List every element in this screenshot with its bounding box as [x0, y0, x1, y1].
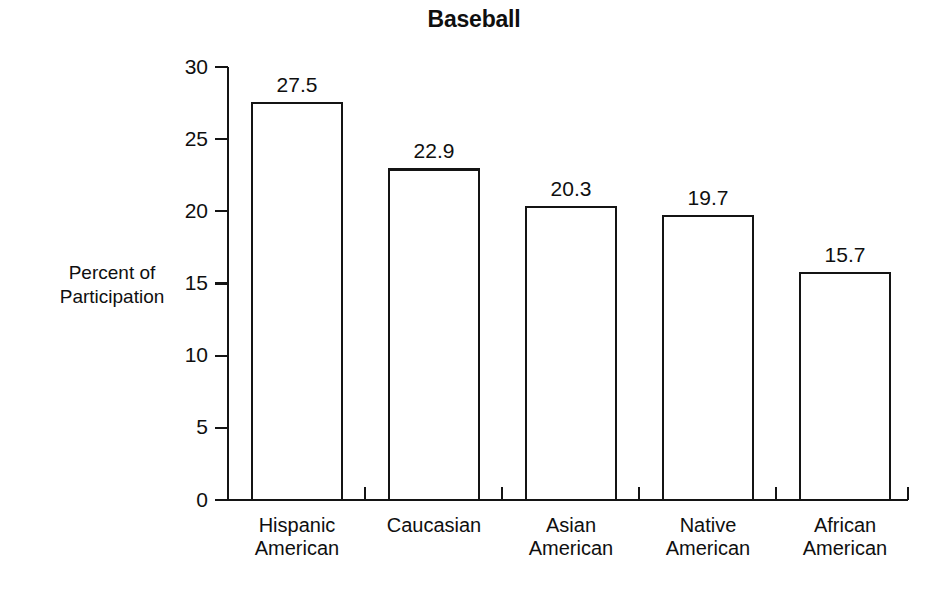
y-axis-tick-label: 25	[185, 127, 208, 150]
bar-1[interactable]	[252, 103, 342, 500]
x-axis-category-label: African	[814, 514, 876, 536]
y-axis-tick-label: 10	[185, 343, 208, 366]
x-axis-category-label: Hispanic	[259, 514, 336, 536]
x-axis-category-label: American	[803, 537, 887, 559]
x-axis-category-label: American	[255, 537, 339, 559]
y-axis-title: Participation	[60, 286, 165, 307]
bar-value-label: 27.5	[277, 73, 318, 96]
bar-value-label: 19.7	[688, 186, 729, 209]
bar-value-label: 20.3	[551, 177, 592, 200]
x-axis-category-label: Caucasian	[387, 514, 482, 536]
x-axis-category-label: Asian	[546, 514, 596, 536]
chart-plot-area: 051015202530Percent ofParticipation27.5H…	[0, 0, 948, 593]
bar-5[interactable]	[800, 273, 890, 500]
bar-value-label: 22.9	[414, 139, 455, 162]
x-axis-category-label: American	[529, 537, 613, 559]
bar-chart-figure: Baseball 051015202530Percent ofParticipa…	[0, 0, 948, 593]
x-axis-category-label: Native	[680, 514, 737, 536]
bar-value-label: 15.7	[825, 243, 866, 266]
y-axis-title: Percent of	[69, 262, 156, 283]
y-axis-tick-label: 30	[185, 55, 208, 78]
bar-2[interactable]	[389, 169, 479, 500]
y-axis-tick-label: 20	[185, 199, 208, 222]
bar-4[interactable]	[663, 216, 753, 500]
y-axis-tick-label: 5	[196, 415, 208, 438]
y-axis-tick-label: 15	[185, 271, 208, 294]
x-axis-category-label: American	[666, 537, 750, 559]
bar-3[interactable]	[526, 207, 616, 500]
y-axis-tick-label: 0	[196, 488, 208, 511]
